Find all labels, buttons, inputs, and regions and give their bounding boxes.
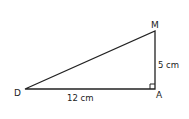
right-angle-marker (150, 84, 155, 89)
triangle-dam (25, 31, 155, 89)
vertex-label-m: M (151, 20, 159, 30)
triangle-diagram: M D A 5 cm 12 cm (0, 0, 189, 119)
side-label-am: 5 cm (158, 60, 179, 70)
vertex-label-a: A (156, 90, 163, 100)
vertex-label-d: D (14, 88, 21, 98)
side-label-da: 12 cm (67, 93, 93, 103)
